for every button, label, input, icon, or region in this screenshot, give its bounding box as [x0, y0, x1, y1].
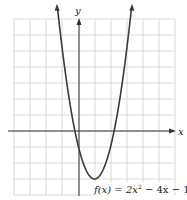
parabola-chart: x y f(x) = 2x2 − 4x − 1	[0, 0, 187, 200]
axes	[8, 18, 176, 196]
y-axis-label: y	[74, 5, 81, 16]
x-axis-label: x	[178, 126, 184, 137]
curve-arrow-right-icon	[129, 4, 134, 11]
curve-arrow-left-icon	[55, 4, 60, 11]
grid-lines	[14, 19, 175, 195]
